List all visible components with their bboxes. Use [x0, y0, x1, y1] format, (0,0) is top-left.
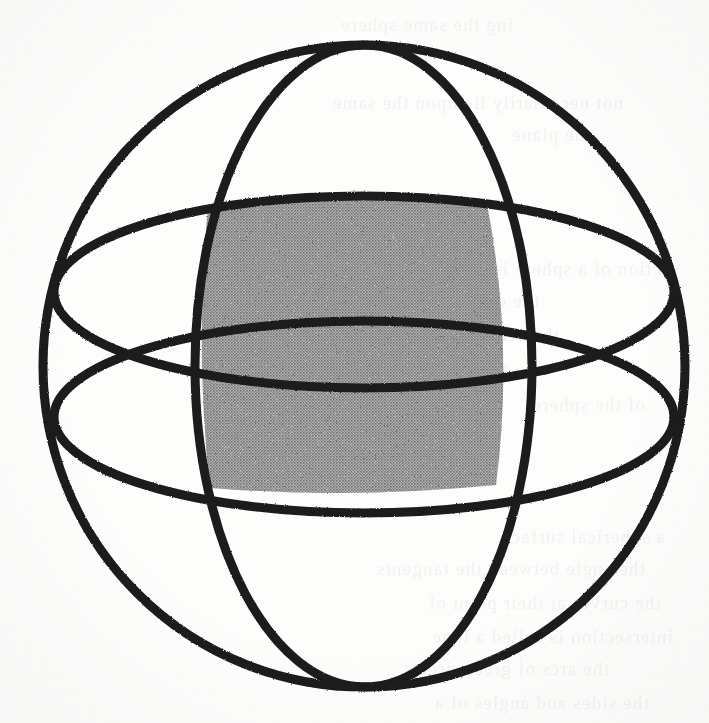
shaded-region-group	[202, 199, 504, 493]
shaded-spherical-quadrilateral	[202, 199, 504, 493]
figure-page: ing the same sphere not necessarily lie …	[0, 0, 709, 723]
sphere-diagram	[0, 0, 709, 723]
